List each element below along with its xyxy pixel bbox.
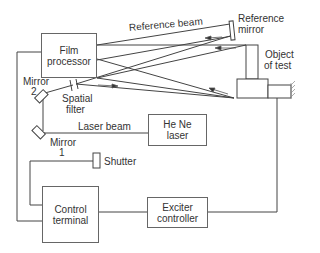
object-stem (246, 45, 258, 79)
laser-beam-label: Laser beam (78, 121, 131, 132)
he-ne-laser-label-2: laser (167, 130, 189, 141)
he-ne-laser-label-1: He Ne (163, 119, 191, 130)
he-ne-laser-box: He Ne laser (148, 114, 207, 146)
control-terminal-box: Control terminal (42, 186, 99, 243)
reference-mirror-shape (229, 21, 235, 40)
exciter-controller-box: Exciter controller (147, 197, 208, 228)
film-processor-label-1: Film (60, 45, 79, 56)
exciter-controller-label-1: Exciter (162, 202, 193, 213)
spatial-filter-label-1: Spatial (62, 93, 93, 104)
object-of-test-label-1: Object (265, 49, 294, 60)
object-clamp (268, 85, 291, 98)
shutter-shape (93, 153, 100, 168)
exciter-controller-label-2: controller (157, 213, 198, 224)
object-beam-e (97, 45, 246, 78)
mirror-1-label-2: 1 (59, 147, 65, 158)
control-terminal-label-2: terminal (53, 215, 89, 226)
reference-mirror-label-2: mirror (238, 24, 264, 35)
object-of-test-label-2: of test (264, 60, 291, 71)
beam-mirror2-to-filter (45, 85, 73, 93)
mirror-2-label-2: 2 (31, 86, 37, 97)
film-processor-box: Film processor (41, 33, 97, 78)
shutter-label: Shutter (104, 156, 136, 167)
object-base (237, 79, 268, 98)
spatial-filter-shape (70, 79, 78, 91)
wire-exciter-to-object (207, 98, 277, 212)
control-terminal-label-1: Control (54, 204, 86, 215)
wall-hatch (291, 81, 295, 99)
film-processor-label-2: processor (47, 56, 91, 67)
reference-mirror-label-1: Reference (238, 13, 284, 24)
spatial-filter-label-2: filter (66, 104, 85, 115)
